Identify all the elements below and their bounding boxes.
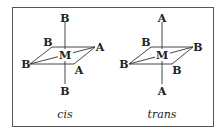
trans-back-left-label: B <box>141 36 150 49</box>
cis-right-label: A <box>95 41 105 54</box>
cis-caption: cis <box>57 108 73 121</box>
cis-front-label: A <box>74 64 84 77</box>
trans-axial-top-label: A <box>157 12 167 25</box>
figure-frame <box>13 8 214 127</box>
trans-caption: trans <box>148 108 177 121</box>
cis-left-label: B <box>21 58 30 71</box>
cis-axial-top-label: B <box>60 12 69 25</box>
cis-axial-bottom-label: B <box>60 85 69 98</box>
trans-left-label: B <box>119 58 128 71</box>
octahedral-isomers-diagram: B M B A B A B cis A M B B B B A trans <box>0 0 224 134</box>
cis-isomer: B M B A B A B cis <box>21 12 104 121</box>
trans-center-label: M <box>156 49 168 62</box>
cis-center-label: M <box>59 49 71 62</box>
trans-isomer: A M B B B B A trans <box>119 12 202 121</box>
trans-right-label: B <box>193 41 202 54</box>
cis-back-left-label: B <box>43 36 52 49</box>
trans-front-label: B <box>172 64 181 77</box>
trans-axial-bottom-label: A <box>157 85 167 98</box>
